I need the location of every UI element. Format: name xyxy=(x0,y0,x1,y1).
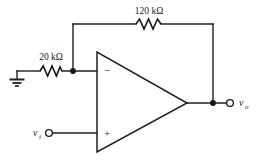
input-terminal-circle[interactable] xyxy=(46,130,53,137)
input-resistor-symbol xyxy=(40,66,62,76)
output-label-symbol: v xyxy=(239,97,244,108)
opamp-inverting-sign: − xyxy=(104,64,110,76)
input-resistor-label: 20 kΩ xyxy=(39,52,63,62)
inverting-input-node-dot xyxy=(70,68,76,74)
output-label-subscript: o xyxy=(245,103,249,111)
input-resistor-zigzag xyxy=(40,66,62,76)
feedback-resistor-label: 120 kΩ xyxy=(135,6,163,16)
output-terminal-label: v o xyxy=(239,97,249,111)
feedback-resistor-zigzag xyxy=(136,19,161,29)
input-branch xyxy=(46,130,97,137)
output-terminal-circle[interactable] xyxy=(227,100,234,107)
opamp-triangle xyxy=(97,52,187,152)
schematic-canvas: 120 kΩ 20 kΩ − + xyxy=(0,0,258,163)
ground-symbol xyxy=(10,80,25,87)
input-label-symbol: v xyxy=(33,127,38,138)
output-node-dot xyxy=(210,100,216,106)
feedback-resistor-symbol xyxy=(136,19,161,29)
input-label-subscript: i xyxy=(39,133,41,141)
opamp-noninverting-sign: + xyxy=(104,127,110,139)
circuit-diagram: 120 kΩ 20 kΩ − + xyxy=(0,0,258,163)
input-terminal-label: v i xyxy=(33,127,41,141)
